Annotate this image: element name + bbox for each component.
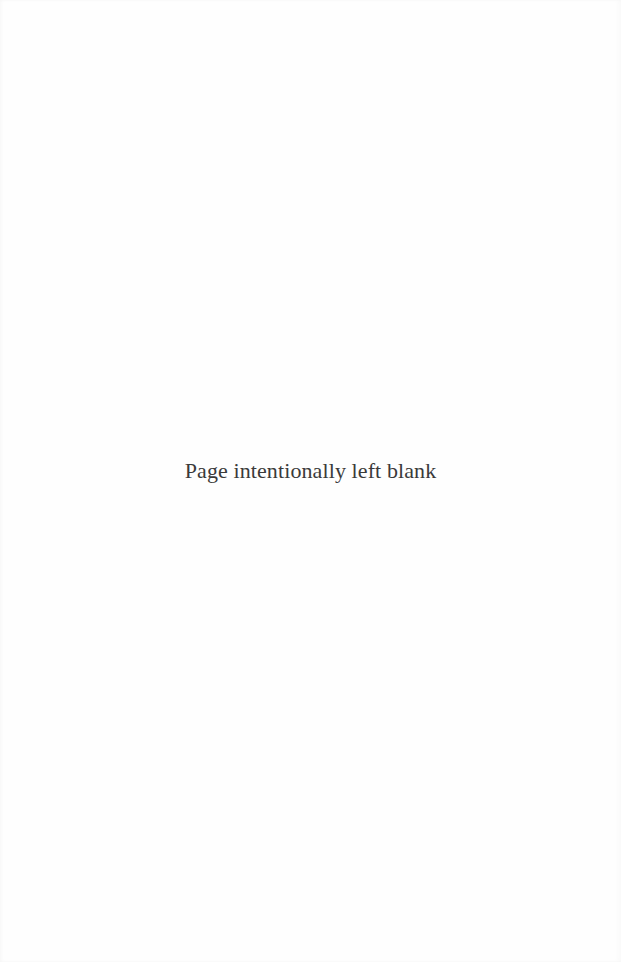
blank-page: Page intentionally left blank <box>0 0 621 962</box>
blank-page-notice: Page intentionally left blank <box>0 458 621 484</box>
